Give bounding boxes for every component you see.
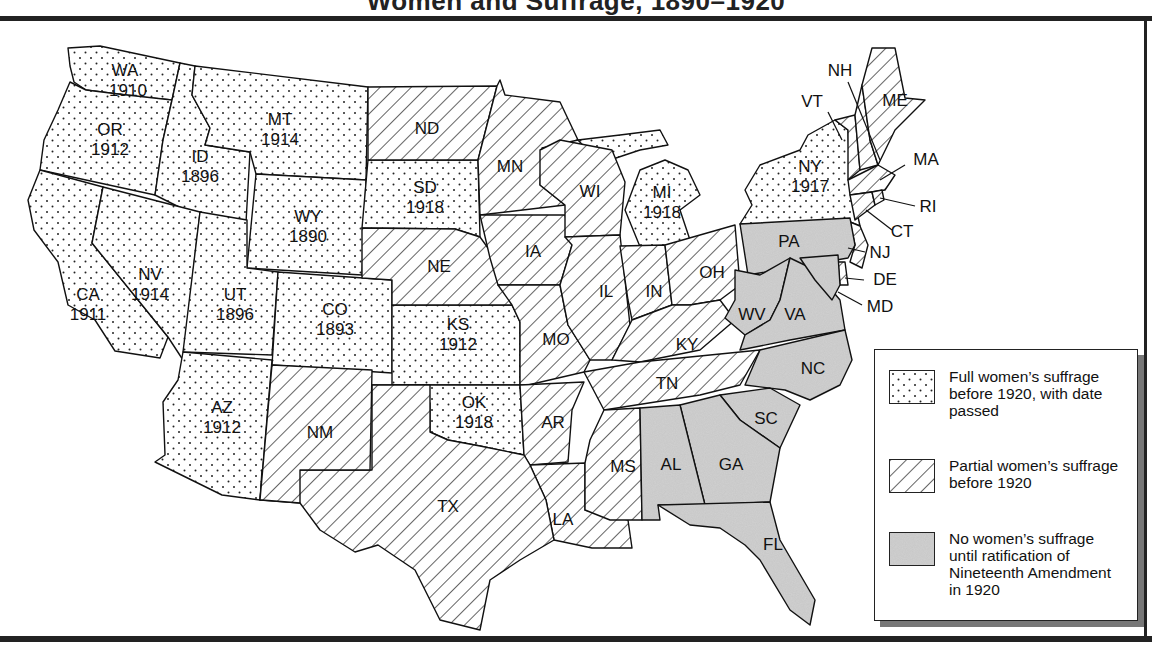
state-FL — [658, 502, 815, 625]
svg-text:MD: MD — [867, 297, 893, 316]
svg-text:CO: CO — [322, 300, 348, 319]
svg-text:KY: KY — [676, 335, 699, 354]
svg-text:1912: 1912 — [203, 418, 241, 437]
svg-text:CA: CA — [76, 285, 100, 304]
svg-text:1910: 1910 — [109, 81, 147, 100]
legend-item-none: No women’s suffrage until ratification o… — [889, 530, 1119, 598]
svg-text:1914: 1914 — [131, 285, 169, 304]
svg-text:NM: NM — [307, 423, 333, 442]
svg-text:MN: MN — [497, 157, 523, 176]
svg-text:UT: UT — [224, 285, 247, 304]
svg-text:1896: 1896 — [181, 167, 219, 186]
svg-text:SC: SC — [754, 409, 778, 428]
svg-text:1917: 1917 — [791, 177, 829, 196]
svg-text:NC: NC — [801, 359, 826, 378]
svg-text:WY: WY — [294, 207, 321, 226]
svg-text:1918: 1918 — [406, 198, 444, 217]
svg-text:MT: MT — [268, 110, 293, 129]
stipple-pattern-icon — [889, 532, 935, 566]
map-legend: Full women’s suffrage before 1920, with … — [874, 349, 1138, 621]
svg-text:1918: 1918 — [455, 413, 493, 432]
svg-text:PA: PA — [778, 232, 800, 251]
svg-text:1896: 1896 — [216, 305, 254, 324]
svg-text:1912: 1912 — [439, 335, 477, 354]
svg-text:NJ: NJ — [870, 243, 891, 262]
svg-text:1914: 1914 — [261, 130, 299, 149]
svg-text:WI: WI — [580, 182, 601, 201]
svg-text:MI: MI — [653, 183, 672, 202]
legend-item-full: Full women’s suffrage before 1920, with … — [889, 368, 1119, 419]
svg-text:NY: NY — [798, 157, 822, 176]
svg-text:DE: DE — [873, 270, 897, 289]
hatch-pattern-icon — [889, 459, 935, 493]
svg-text:MS: MS — [610, 457, 636, 476]
svg-text:OH: OH — [699, 263, 725, 282]
svg-text:1918: 1918 — [643, 203, 681, 222]
svg-text:RI: RI — [920, 197, 937, 216]
svg-text:IL: IL — [599, 282, 613, 301]
svg-text:NH: NH — [828, 61, 853, 80]
svg-text:CT: CT — [891, 222, 914, 241]
svg-text:MA: MA — [913, 150, 939, 169]
svg-text:IA: IA — [525, 242, 542, 261]
svg-text:VA: VA — [784, 305, 806, 324]
svg-text:MO: MO — [542, 330, 569, 349]
svg-text:LA: LA — [553, 510, 574, 529]
svg-text:NE: NE — [427, 257, 451, 276]
svg-text:KS: KS — [447, 315, 470, 334]
svg-text:IN: IN — [646, 282, 663, 301]
state-CT — [850, 192, 875, 220]
svg-text:WV: WV — [738, 305, 766, 324]
svg-text:WA: WA — [112, 61, 139, 80]
svg-text:AR: AR — [541, 413, 565, 432]
legend-item-partial: Partial women’s suffrage before 1920 — [889, 457, 1119, 493]
svg-text:GA: GA — [719, 455, 744, 474]
legend-label-full: Full women’s suffrage before 1920, with … — [949, 368, 1119, 419]
svg-text:ND: ND — [415, 119, 440, 138]
svg-text:AZ: AZ — [211, 398, 233, 417]
legend-label-partial: Partial women’s suffrage before 1920 — [949, 457, 1119, 491]
svg-text:TX: TX — [437, 497, 459, 516]
svg-text:ME: ME — [882, 91, 908, 110]
svg-text:AL: AL — [661, 455, 682, 474]
svg-text:ID: ID — [192, 147, 209, 166]
svg-text:1911: 1911 — [70, 305, 107, 324]
svg-text:1893: 1893 — [316, 320, 354, 339]
svg-text:OR: OR — [97, 120, 123, 139]
svg-text:NV: NV — [138, 265, 162, 284]
svg-text:1890: 1890 — [289, 227, 327, 246]
state-RI — [872, 190, 884, 205]
svg-text:1912: 1912 — [91, 140, 129, 159]
svg-text:TN: TN — [656, 374, 679, 393]
svg-text:SD: SD — [413, 178, 437, 197]
legend-label-none: No women’s suffrage until ratification o… — [949, 530, 1119, 598]
svg-text:OK: OK — [462, 393, 487, 412]
dots-pattern-icon — [889, 370, 935, 404]
svg-text:FL: FL — [763, 535, 783, 554]
svg-text:VT: VT — [801, 92, 823, 111]
